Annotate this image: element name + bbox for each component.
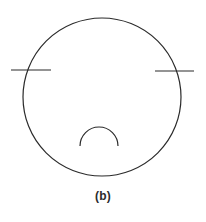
bottom-dome-arc	[80, 127, 118, 146]
main-circle	[23, 18, 181, 176]
figure-caption: (b)	[0, 188, 206, 204]
figure-container: (b)	[0, 0, 206, 222]
